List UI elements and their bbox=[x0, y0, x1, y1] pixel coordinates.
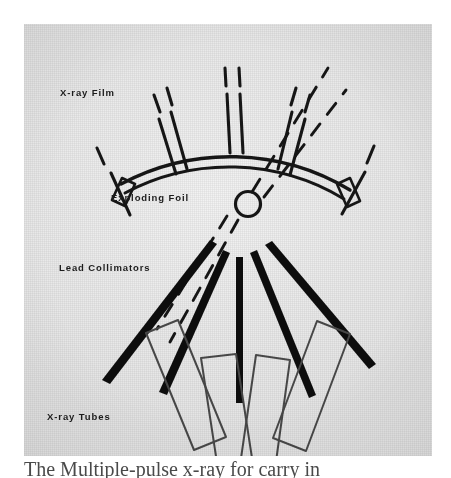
x-ray-tubes bbox=[146, 320, 350, 456]
exploding-foil-circle bbox=[236, 192, 261, 217]
label-x-ray-tubes: X-ray Tubes bbox=[47, 411, 111, 422]
x-ray-tube-2 bbox=[201, 354, 254, 456]
lead-collimator-5 bbox=[265, 241, 376, 369]
x-ray-tube-1 bbox=[146, 320, 226, 450]
schematic-diagram: X-ray Film Exploding Foil Lead Collimato… bbox=[24, 24, 432, 456]
figure-caption: The Multiple-pulse x-ray for carry in bbox=[24, 456, 436, 478]
label-lead-collimators: Lead Collimators bbox=[59, 262, 150, 273]
exploding-foil bbox=[236, 192, 261, 217]
label-x-ray-film: X-ray Film bbox=[60, 87, 115, 98]
photographic-plate: X-ray Film Exploding Foil Lead Collimato… bbox=[24, 24, 432, 456]
lead-collimator-4 bbox=[250, 250, 316, 398]
label-exploding-foil: Exploding Foil bbox=[111, 192, 189, 203]
figure-root: X-ray Film Exploding Foil Lead Collimato… bbox=[0, 0, 451, 478]
